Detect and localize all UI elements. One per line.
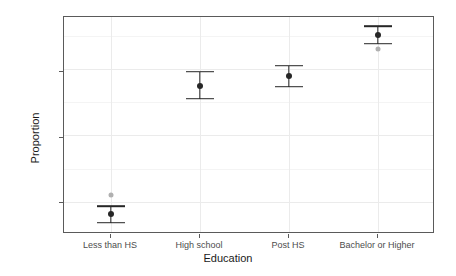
x-axis-tick-mark: [199, 234, 200, 238]
data-point: [375, 32, 381, 38]
error-bar-cap-upper: [186, 71, 214, 73]
x-axis-tick-mark: [110, 234, 111, 238]
x-axis-title: Education: [0, 252, 456, 264]
gridline-vertical: [111, 17, 112, 232]
error-bar-cap-lower: [364, 43, 392, 45]
x-axis-tick-label: High school: [175, 240, 222, 250]
gridline-vertical: [200, 17, 201, 232]
data-point: [108, 211, 114, 217]
error-bar-cap-upper: [364, 26, 392, 28]
reference-point: [376, 46, 381, 51]
error-bar-cap-lower: [186, 98, 214, 100]
y-axis-title: Proportion: [29, 113, 41, 164]
gridline-vertical: [289, 17, 290, 232]
error-bar-cap-lower: [97, 222, 125, 224]
error-bar-cap-lower: [275, 86, 303, 88]
x-axis-tick-label: Post HS: [271, 240, 304, 250]
x-axis-tick-label: Bachelor or Higher: [339, 240, 414, 250]
x-axis-tick-mark: [288, 234, 289, 238]
error-bar-cap-upper: [275, 65, 303, 67]
chart-figure: Proportion Education 0.3 0.2 0.1 Less th…: [0, 0, 456, 276]
data-point: [286, 73, 292, 79]
data-point: [197, 83, 203, 89]
error-bar-cap-upper: [97, 205, 125, 207]
plot-panel: [63, 16, 434, 233]
x-axis-tick-mark: [377, 234, 378, 238]
x-axis-tick-label: Less than HS: [83, 240, 137, 250]
reference-point: [109, 192, 114, 197]
